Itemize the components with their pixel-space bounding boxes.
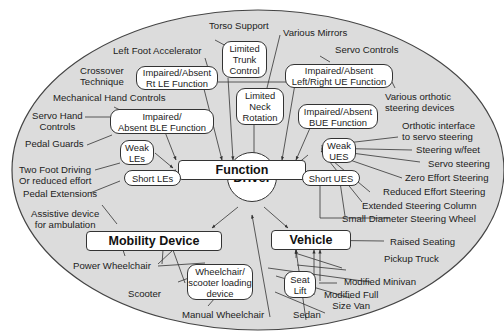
loading-device-box: Wheelchair/scooter loadingdevice xyxy=(187,264,253,300)
zero-effort-label: Zero Effort Steering xyxy=(405,172,489,183)
sedan-label: Sedan xyxy=(293,309,321,320)
raised-seating-label: Raised Seating xyxy=(390,236,455,247)
crossover-technique-label: CrossoverTechnique xyxy=(80,65,124,87)
scooter-label: Scooter xyxy=(128,288,161,299)
limited-trunk-control-box: LimitedTrunkControl xyxy=(222,41,267,78)
weak-ues-box: WeakUES xyxy=(322,138,356,163)
servo-steering-label: Servo steering xyxy=(428,158,490,169)
orthotic-interface-label: Orthotic interfaceto servo steering xyxy=(402,120,475,142)
two-foot-driving-label: Two Foot DrivingOr reduced effort xyxy=(19,164,91,186)
bue-function-box: Impaired/AbsentBUE Function xyxy=(298,104,378,129)
seat-lift-box: SeatLift xyxy=(284,271,316,298)
vehicle-node: Vehicle xyxy=(271,230,351,250)
servo-hand-controls-label: Servo HandControls xyxy=(32,110,83,132)
weak-les-box: WeakLEs xyxy=(120,140,154,165)
pedal-extensions-label: Pedal Extensions xyxy=(23,188,97,199)
modified-full-size-van-label: Modified FullSize Van xyxy=(324,289,378,311)
short-les-box: Short LEs xyxy=(124,170,181,186)
pickup-truck-label: Pickup Truck xyxy=(384,253,439,264)
assistive-device-label: Assistive devicefor ambulation xyxy=(31,208,99,230)
power-wheelchair-label: Power Wheelchair xyxy=(73,260,151,271)
modified-minivan-label: Modified Minivan xyxy=(344,276,416,287)
pedal-guards-label: Pedal Guards xyxy=(25,138,84,149)
mobility-device-node: Mobility Device xyxy=(86,231,222,251)
reduced-effort-label: Reduced Effort Steering xyxy=(383,186,485,197)
short-ues-box: Short UES xyxy=(302,170,360,186)
various-mirrors-label: Various Mirrors xyxy=(283,27,347,38)
left-foot-accelerator-label: Left Foot Accelerator xyxy=(113,45,202,56)
limited-neck-rotation-box: LimitedNeckRotation xyxy=(236,88,284,125)
torso-support-label: Torso Support xyxy=(209,20,269,31)
steering-feet-label: Steering w/feet xyxy=(416,144,480,155)
mechanical-hand-controls-label: Mechanical Hand Controls xyxy=(53,92,166,103)
ble-function-box: Impaired/Absent BLE Function xyxy=(110,109,214,134)
function-node: Function xyxy=(178,160,306,180)
rt-le-function-box: Impaired/AbsentRt LE Function xyxy=(136,66,218,90)
lr-ue-function-box: Impaired/AbsentLeft/Right UE Function xyxy=(285,64,393,88)
various-orthotic-label: Various orthoticsteering devices xyxy=(385,91,454,113)
extended-column-label: Extended Steering Column xyxy=(362,200,477,211)
servo-controls-label: Servo Controls xyxy=(335,44,398,55)
driver-diagram: Driver Function Mobility Device Vehicle … xyxy=(0,0,504,333)
manual-wheelchair-label: Manual Wheelchair xyxy=(182,309,264,320)
small-wheel-label: Small Diameter Steering Wheel xyxy=(342,213,476,224)
